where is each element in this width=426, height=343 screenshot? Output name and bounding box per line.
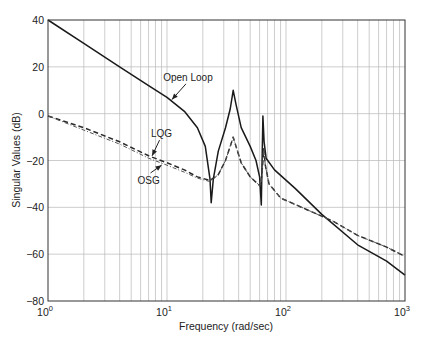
annotation-lqg: LQG — [151, 128, 172, 139]
y-tick-label: −40 — [26, 201, 44, 213]
series-osg — [48, 116, 405, 257]
x-tick-label: 100 — [37, 304, 53, 318]
y-axis-label: Singular Values (dB) — [10, 112, 22, 208]
x-axis-label: Frequency (rad/sec) — [179, 320, 273, 332]
singular-values-chart: Open LoopLQGOSG 40200−20−40−60−80 100101… — [0, 0, 426, 343]
series-open-loop — [48, 20, 405, 275]
y-tick-label: −60 — [26, 248, 44, 260]
grid-lines — [48, 20, 405, 301]
x-tick-label: 101 — [156, 304, 172, 318]
series-layer — [48, 20, 405, 275]
x-tick-label: 102 — [275, 304, 291, 318]
y-tick-label: 20 — [32, 61, 44, 73]
y-tick-label: −20 — [26, 155, 44, 167]
y-tick-labels: 40200−20−40−60−80 — [26, 14, 44, 307]
y-tick-label: 40 — [32, 14, 44, 26]
x-tick-labels: 100101102103 — [37, 304, 410, 318]
y-tick-label: 0 — [38, 108, 44, 120]
annotation-osg: OSG — [137, 175, 159, 186]
arrowhead-icon — [155, 165, 161, 170]
annotation-open-loop: Open Loop — [163, 72, 213, 83]
x-tick-label: 103 — [394, 304, 410, 318]
